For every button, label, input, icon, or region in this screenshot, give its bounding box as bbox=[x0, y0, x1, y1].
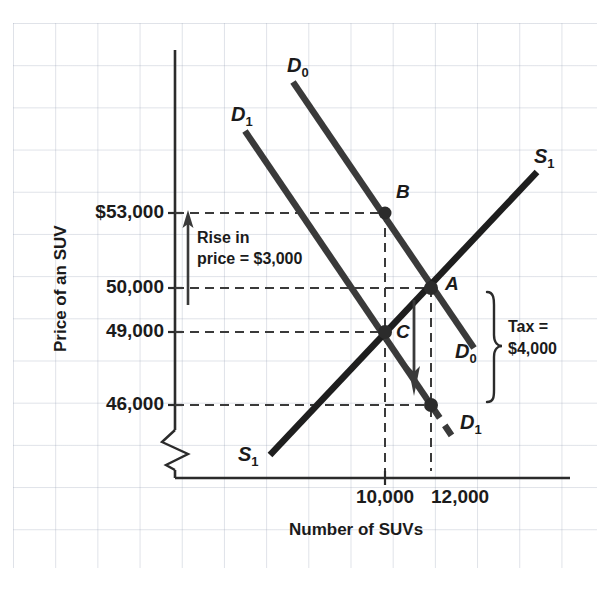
point-a-marker bbox=[424, 281, 438, 295]
curve-label-d0-bottom-letter: D bbox=[455, 340, 469, 362]
tax-brace bbox=[487, 292, 502, 402]
annotation-rise-in-price-line1: Rise in bbox=[197, 229, 249, 246]
demand-curve-d1 bbox=[245, 131, 431, 405]
curve-label-d1-top: D1 bbox=[231, 104, 253, 129]
curve-label-s1-top-subscript: 1 bbox=[547, 156, 554, 171]
y-tick-label-53000: $53,000 bbox=[62, 202, 164, 223]
demand-curve-d1-tail bbox=[433, 408, 456, 442]
curve-label-d0-top-subscript: 0 bbox=[301, 65, 308, 80]
curve-label-s1-bottom-subscript: 1 bbox=[251, 454, 258, 469]
x-tick-label-10000: 10,000 bbox=[341, 487, 429, 508]
y-tick-label-46000: 46,000 bbox=[62, 394, 164, 415]
curve-label-s1-bottom: S1 bbox=[238, 444, 259, 469]
curve-label-d0-top: D0 bbox=[287, 55, 309, 80]
figure-root: $53,000 50,000 49,000 46,000 10,000 12,0… bbox=[0, 0, 608, 590]
curve-label-s1-top: S1 bbox=[534, 146, 555, 171]
curve-label-d1-top-subscript: 1 bbox=[245, 114, 252, 129]
curve-label-d1-bottom-letter: D bbox=[460, 411, 474, 433]
curve-label-d1-top-letter: D bbox=[231, 103, 245, 125]
curve-label-d0-top-letter: D bbox=[287, 54, 301, 76]
x-axis-title: Number of SUVs bbox=[289, 521, 423, 539]
annotation-tax-line2: $4,000 bbox=[508, 340, 557, 357]
curve-label-d0-bottom: D0 bbox=[455, 341, 477, 366]
curve-label-d1-bottom: D1 bbox=[460, 412, 482, 437]
point-label-b: B bbox=[396, 182, 410, 203]
curve-label-d0-bottom-subscript: 0 bbox=[469, 351, 476, 366]
supply-curve-s1 bbox=[270, 172, 537, 455]
annotation-rise-in-price-line2: price = $3,000 bbox=[197, 250, 302, 267]
point-b-marker bbox=[379, 207, 392, 220]
point-label-c: C bbox=[396, 322, 410, 343]
y-axis-break-icon bbox=[162, 430, 188, 470]
x-tick-label-12000: 12,000 bbox=[431, 487, 519, 508]
y-tick-label-50000: 50,000 bbox=[62, 277, 164, 298]
curve-label-d1-bottom-subscript: 1 bbox=[474, 422, 481, 437]
point-d1-lower-marker bbox=[424, 398, 438, 412]
y-axis-title: Price of an SUV bbox=[52, 225, 70, 352]
curve-label-s1-top-letter: S bbox=[534, 145, 547, 167]
y-tick-label-49000: 49,000 bbox=[62, 321, 164, 342]
point-label-a: A bbox=[445, 274, 459, 295]
annotation-tax-line1: Tax = bbox=[508, 318, 548, 335]
curve-label-s1-bottom-letter: S bbox=[238, 443, 251, 465]
point-c-marker bbox=[378, 325, 392, 339]
